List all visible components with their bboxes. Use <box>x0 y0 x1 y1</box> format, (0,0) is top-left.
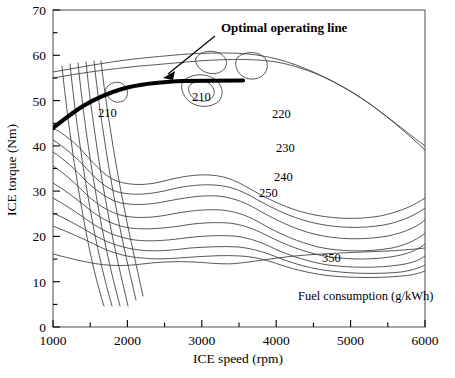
y-tick-label-10: 10 <box>33 275 47 290</box>
contour-plot-svg: 0 10 20 30 40 50 60 70 1000 2000 3000 40… <box>0 0 455 378</box>
y-tick-label-50: 50 <box>33 94 47 109</box>
y-tick-label-30: 30 <box>33 184 47 199</box>
x-tick-label-6000: 6000 <box>412 333 439 348</box>
y-tick-label-60: 60 <box>33 48 47 63</box>
y-axis-title: ICE torque (Nm) <box>4 124 19 216</box>
x-tick-label-2000: 2000 <box>114 333 141 348</box>
x-tick-label-5000: 5000 <box>337 333 364 348</box>
contour-label-230: 230 <box>276 141 295 155</box>
contour-label-350: 350 <box>322 251 341 265</box>
x-axis-title: ICE speed (rpm) <box>193 351 283 366</box>
contour-label-210-left: 210 <box>98 106 117 120</box>
contour-label-210-right: 210 <box>192 90 211 104</box>
x-tick-label-3000: 3000 <box>188 333 215 348</box>
y-tick-label-20: 20 <box>33 229 47 244</box>
fuel-consumption-units-note: Fuel consumption (g/kWh) <box>298 289 433 303</box>
contour-label-250: 250 <box>259 186 278 200</box>
x-tick-label-1000: 1000 <box>40 333 67 348</box>
y-tick-label-40: 40 <box>33 139 47 154</box>
y-tick-label-70: 70 <box>33 3 47 18</box>
fuel-consumption-contour-figure: 0 10 20 30 40 50 60 70 1000 2000 3000 40… <box>0 0 455 378</box>
contour-label-220: 220 <box>272 107 291 121</box>
x-tick-label-4000: 4000 <box>263 333 290 348</box>
optimal-operating-line-annotation: Optimal operating line <box>221 20 348 35</box>
contour-label-240: 240 <box>274 170 293 184</box>
